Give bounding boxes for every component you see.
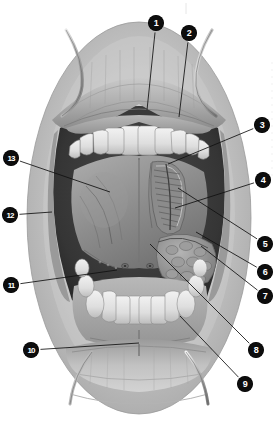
callout-marker-13[interactable]: 13 — [4, 151, 19, 166]
callout-marker-11[interactable]: 11 — [4, 278, 19, 293]
figure-canvas: 12345678910111213 — [0, 0, 279, 424]
callout-marker-8[interactable]: 8 — [249, 343, 264, 358]
callout-marker-1[interactable]: 1 — [149, 16, 164, 31]
callout-marker-3[interactable]: 3 — [255, 118, 270, 133]
anatomy-illustration — [0, 0, 279, 424]
callout-marker-5[interactable]: 5 — [258, 237, 273, 252]
callout-marker-12[interactable]: 12 — [3, 208, 18, 223]
callout-marker-6[interactable]: 6 — [258, 265, 273, 280]
callout-marker-7[interactable]: 7 — [258, 289, 273, 304]
callout-marker-10[interactable]: 10 — [24, 343, 39, 358]
callout-marker-4[interactable]: 4 — [256, 173, 271, 188]
callout-marker-2[interactable]: 2 — [182, 26, 197, 41]
callout-marker-9[interactable]: 9 — [238, 377, 253, 392]
